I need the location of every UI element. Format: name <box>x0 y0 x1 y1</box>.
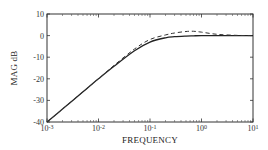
dashed-series-line <box>47 31 253 122</box>
y-tick-label: -20 <box>33 75 44 84</box>
y-tick-labels: 100-10-20-30-40 <box>33 10 44 127</box>
major-ticks <box>47 14 253 122</box>
x-tick-label: 10-3 <box>41 124 54 133</box>
x-tick-label: 10-1 <box>144 124 157 133</box>
x-tick-label: 101 <box>248 124 259 133</box>
x-axis-title: FREQUENCY <box>122 135 178 145</box>
series-layer <box>47 31 253 122</box>
minor-ticks <box>63 14 251 122</box>
x-tick-label: 10-2 <box>92 124 105 133</box>
bode-magnitude-chart: 100-10-20-30-40 10-310-210-1100101 FREQU… <box>0 0 268 150</box>
y-tick-label: 10 <box>36 10 44 19</box>
x-tick-label: 100 <box>196 124 207 133</box>
y-tick-label: 0 <box>40 32 44 41</box>
plot-frame <box>47 14 253 122</box>
y-tick-label: -10 <box>33 53 44 62</box>
y-axis-title: MAG dB <box>9 51 19 86</box>
solid-series-line <box>47 36 253 122</box>
x-tick-labels: 10-310-210-1100101 <box>41 124 259 133</box>
y-tick-label: -30 <box>33 96 44 105</box>
